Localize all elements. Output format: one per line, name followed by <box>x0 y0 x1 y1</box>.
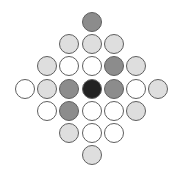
circle-light <box>82 34 102 54</box>
circle-white <box>104 101 124 121</box>
circle-light <box>59 123 79 143</box>
circle-light <box>37 56 57 76</box>
circle-white <box>126 79 146 99</box>
circle-white <box>37 101 57 121</box>
circle-white <box>82 101 102 121</box>
circle-medium <box>104 56 124 76</box>
circle-medium <box>82 12 102 32</box>
circle-black <box>82 79 102 99</box>
circle-white <box>15 79 35 99</box>
circle-white <box>104 123 124 143</box>
circle-light <box>126 101 146 121</box>
circle-white <box>82 56 102 76</box>
diamond-circle-grid <box>0 0 178 181</box>
circle-light <box>126 56 146 76</box>
circle-light <box>59 34 79 54</box>
circle-light <box>104 34 124 54</box>
circle-light <box>148 79 168 99</box>
circle-white <box>59 56 79 76</box>
circle-light <box>37 79 57 99</box>
circle-medium <box>59 79 79 99</box>
circle-medium <box>104 79 124 99</box>
circle-medium <box>59 101 79 121</box>
circle-light <box>82 145 102 165</box>
circle-white <box>82 123 102 143</box>
